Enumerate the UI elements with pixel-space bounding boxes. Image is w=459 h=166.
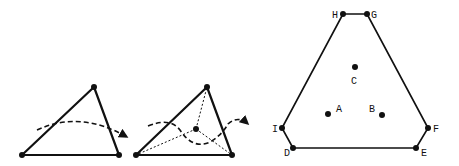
label-E: E bbox=[421, 148, 427, 159]
label-C: C bbox=[351, 76, 357, 87]
vertex-dot bbox=[19, 152, 25, 158]
point-C bbox=[352, 64, 358, 70]
label-I: I bbox=[272, 124, 278, 135]
center-dot bbox=[193, 126, 199, 132]
figure-single-triangle bbox=[19, 84, 127, 158]
diagram-canvas: H G F E D I C A B bbox=[0, 0, 459, 166]
label-H: H bbox=[332, 10, 338, 21]
vertex-dot bbox=[229, 152, 235, 158]
point-B bbox=[379, 112, 385, 118]
vertex-dot-F bbox=[425, 125, 431, 131]
vertex-dot bbox=[91, 84, 97, 90]
vertex-dot-H bbox=[340, 11, 346, 17]
vertex-dot bbox=[116, 152, 122, 158]
vertex-dot bbox=[133, 152, 139, 158]
label-B: B bbox=[369, 104, 375, 115]
vertex-dot-E bbox=[413, 145, 419, 151]
vertex-dot bbox=[204, 84, 210, 90]
vertex-dot-I bbox=[279, 125, 285, 131]
vertex-dot-D bbox=[290, 145, 296, 151]
figure-hexagon: H G F E D I C A B bbox=[272, 10, 439, 159]
label-G: G bbox=[371, 10, 377, 21]
label-A: A bbox=[336, 104, 342, 115]
triangle-outline bbox=[136, 87, 232, 155]
dashed-curve-arrow bbox=[148, 120, 248, 145]
dotted-edge bbox=[136, 129, 196, 155]
vertex-dot-G bbox=[364, 11, 370, 17]
point-A bbox=[325, 111, 331, 117]
figure-subdivided-triangle bbox=[133, 84, 248, 158]
label-F: F bbox=[433, 124, 439, 135]
label-D: D bbox=[284, 148, 290, 159]
